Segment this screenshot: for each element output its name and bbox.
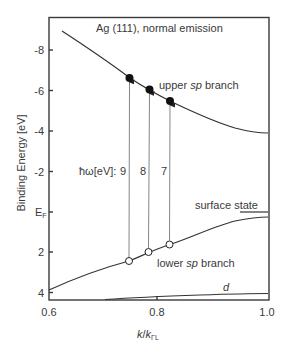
x-tick-label: 0.8 bbox=[149, 306, 164, 318]
photon-energy-7: 7 bbox=[161, 165, 167, 177]
d-band-curve bbox=[105, 294, 268, 300]
y-tick-label-ef: EF bbox=[35, 206, 47, 219]
photon-energy-8: 8 bbox=[140, 165, 146, 177]
y-tick-label: -8 bbox=[34, 44, 44, 56]
surface-state-label: surface state bbox=[195, 199, 258, 211]
y-tick-label: -6 bbox=[34, 85, 44, 97]
photon-energy-label: ħω[eV]: bbox=[79, 165, 116, 177]
y-tick-label: 2 bbox=[38, 246, 44, 258]
x-tick-label: 0.6 bbox=[41, 306, 56, 318]
x-axis-tick-labels: 0.6 0.8 1.0 bbox=[41, 306, 274, 318]
y-axis-label: Binding Energy [eV] bbox=[15, 114, 27, 211]
lower-sp-branch-label: lower sp branch bbox=[157, 257, 235, 269]
photon-energy-9: 9 bbox=[120, 165, 126, 177]
band-structure-chart: -8 -6 -4 -2 EF 2 4 0.6 0.8 1.0 Binding E… bbox=[0, 0, 288, 355]
x-axis-label: k/kΓL bbox=[137, 328, 159, 341]
y-tick-label: 4 bbox=[38, 287, 44, 299]
y-tick-label: -2 bbox=[34, 166, 44, 178]
x-tick-label: 1.0 bbox=[259, 306, 274, 318]
d-band-label: d bbox=[223, 281, 230, 293]
chart-title: Ag (111), normal emission bbox=[96, 22, 223, 34]
lower-sp-branch-curve bbox=[49, 217, 268, 290]
upper-sp-branch-label: upper sp branch bbox=[159, 79, 239, 91]
y-tick-label: -4 bbox=[34, 125, 44, 137]
y-axis-tick-labels: -8 -6 -4 -2 EF 2 4 bbox=[34, 44, 46, 299]
